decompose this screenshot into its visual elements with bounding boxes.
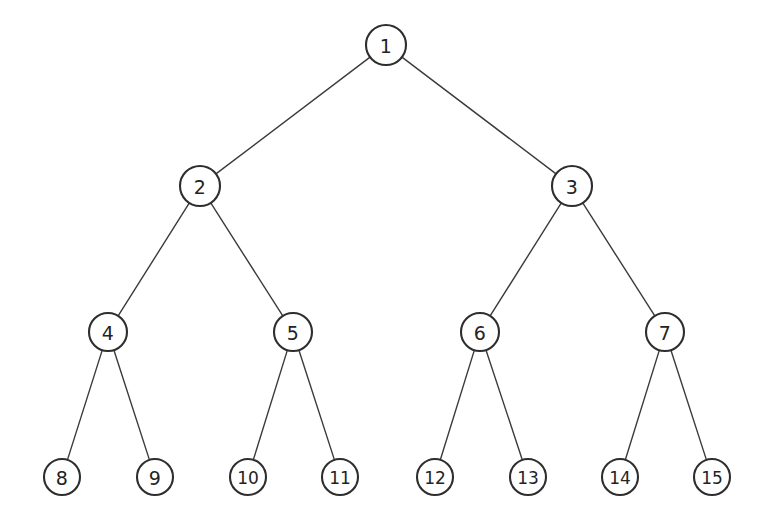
node-label-7: 7 — [659, 322, 672, 344]
node-label-10: 10 — [237, 468, 259, 488]
tree-node-9[interactable]: 9 — [137, 459, 173, 495]
tree-edge-5-10 — [253, 350, 287, 460]
tree-node-4[interactable]: 4 — [89, 313, 127, 351]
tree-edge-2-5 — [211, 203, 283, 316]
tree-node-8[interactable]: 8 — [44, 459, 80, 495]
tree-node-7[interactable]: 7 — [646, 313, 684, 351]
tree-node-2[interactable]: 2 — [180, 166, 220, 206]
node-label-11: 11 — [329, 468, 351, 488]
tree-edge-1-3 — [402, 57, 556, 174]
node-label-12: 12 — [424, 468, 446, 488]
tree-edge-6-13 — [486, 350, 522, 460]
tree-edge-3-6 — [490, 203, 561, 316]
node-label-1: 1 — [380, 35, 393, 57]
node-label-13: 13 — [517, 468, 539, 488]
tree-node-5[interactable]: 5 — [274, 313, 312, 351]
tree-node-15[interactable]: 15 — [694, 459, 730, 495]
tree-node-11[interactable]: 11 — [322, 459, 358, 495]
tree-node-14[interactable]: 14 — [602, 459, 638, 495]
tree-edge-1-2 — [216, 57, 370, 174]
tree-node-6[interactable]: 6 — [461, 313, 499, 351]
node-label-14: 14 — [609, 468, 631, 488]
tree-node-1[interactable]: 1 — [366, 25, 406, 65]
tree-edge-5-11 — [299, 350, 335, 460]
node-label-4: 4 — [102, 322, 115, 344]
tree-edge-7-14 — [625, 350, 659, 460]
tree-edge-3-7 — [583, 203, 655, 316]
tree-edge-6-12 — [440, 350, 474, 460]
node-label-15: 15 — [701, 468, 723, 488]
tree-edge-4-8 — [67, 350, 102, 460]
edge-layer — [67, 57, 706, 460]
node-label-2: 2 — [194, 176, 207, 198]
tree-edge-2-4 — [118, 203, 189, 316]
node-layer: 123456789101112131415 — [44, 25, 730, 495]
node-label-9: 9 — [149, 467, 162, 489]
node-label-3: 3 — [566, 176, 579, 198]
node-label-8: 8 — [56, 467, 69, 489]
binary-tree-diagram: 123456789101112131415 — [0, 0, 767, 531]
tree-node-12[interactable]: 12 — [417, 459, 453, 495]
tree-edge-7-15 — [671, 350, 707, 460]
tree-node-13[interactable]: 13 — [510, 459, 546, 495]
tree-node-10[interactable]: 10 — [230, 459, 266, 495]
tree-canvas: 123456789101112131415 — [0, 0, 767, 531]
node-label-6: 6 — [474, 322, 487, 344]
tree-node-3[interactable]: 3 — [552, 166, 592, 206]
tree-edge-4-9 — [114, 350, 150, 460]
node-label-5: 5 — [287, 322, 300, 344]
